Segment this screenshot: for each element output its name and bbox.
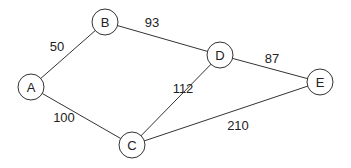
node-label: E [316,75,325,90]
edge-labels-layer: 509387100112210 [50,15,279,133]
edge-weight-label: 87 [265,51,279,66]
edge-a-c [31,87,132,145]
weighted-graph: 509387100112210 ABCDE [0,0,351,168]
node-label: A [27,80,36,95]
edge-weight-label: 93 [145,15,159,30]
node-c: C [119,132,145,158]
edge-b-d [105,22,220,55]
edge-c-d [132,55,220,145]
edge-a-b [31,22,105,87]
node-label: D [215,48,224,63]
edge-weight-label: 210 [227,118,249,133]
edge-weight-label: 112 [173,81,194,96]
edge-weight-label: 100 [53,110,75,125]
node-a: A [18,74,44,100]
node-d: D [207,42,233,68]
node-b: B [92,9,118,35]
edge-c-e [132,82,320,145]
edge-weight-label: 50 [50,39,64,54]
node-label: B [101,15,110,30]
node-label: C [127,138,136,153]
node-e: E [307,69,333,95]
